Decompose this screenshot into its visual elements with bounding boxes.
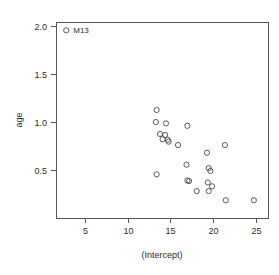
x-tick-label: 20: [208, 226, 218, 236]
data-point-marker: [157, 131, 162, 136]
y-tick-label: 2.0: [34, 22, 47, 32]
x-axis-label: (Intercept): [141, 250, 182, 260]
data-point-marker: [154, 172, 159, 177]
plot-border: [57, 23, 269, 219]
y-tick-label: 1.5: [34, 70, 47, 80]
y-axis-label: age: [14, 112, 24, 127]
plot-frame: [57, 23, 269, 219]
data-point-marker: [251, 198, 256, 203]
plot-canvas: 510152025 0.51.01.52.0 M13 (Intercept) a…: [0, 0, 279, 275]
data-point-marker: [223, 198, 228, 203]
x-tick-label: 5: [83, 226, 88, 236]
x-tick-label: 25: [251, 226, 261, 236]
data-points: [64, 28, 257, 203]
x-axis-ticks: 510152025: [83, 218, 262, 236]
data-point-marker: [194, 189, 199, 194]
point-annotations: M13: [73, 26, 89, 35]
data-point-marker: [153, 119, 158, 124]
scatter-plot-figure: 510152025 0.51.01.52.0 M13 (Intercept) a…: [0, 0, 279, 275]
data-point-marker: [205, 180, 210, 185]
data-point-marker: [206, 189, 211, 194]
data-point-marker: [154, 107, 159, 112]
data-point-marker: [222, 142, 227, 147]
y-axis-ticks: 0.51.01.52.0: [34, 22, 56, 176]
y-tick-label: 0.5: [34, 166, 47, 176]
data-point-marker: [210, 184, 215, 189]
data-point-marker: [185, 123, 190, 128]
data-point-marker: [163, 121, 168, 126]
y-tick-label: 1.0: [34, 118, 47, 128]
x-tick-label: 15: [165, 226, 175, 236]
data-point-label: M13: [73, 26, 89, 35]
data-point-marker: [175, 142, 180, 147]
x-tick-label: 10: [123, 226, 133, 236]
data-point-marker: [184, 162, 189, 167]
data-point-marker: [64, 28, 69, 33]
data-point-marker: [204, 150, 209, 155]
data-point-marker: [160, 137, 165, 142]
